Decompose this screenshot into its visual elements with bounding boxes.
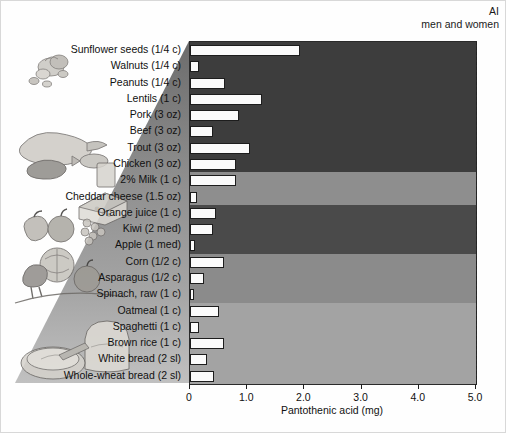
- category-label: Kiwi (2 med): [123, 220, 181, 237]
- bar: [190, 143, 250, 154]
- plot-area: [189, 41, 477, 385]
- x-tick-label: 5.0: [468, 391, 483, 403]
- bar-row: [190, 351, 476, 368]
- bar-row: [190, 189, 476, 206]
- bar-row: [190, 221, 476, 238]
- bar: [190, 45, 300, 56]
- ai-annotation-line1: AI: [421, 5, 499, 18]
- category-label: Beef (3 oz): [130, 122, 181, 139]
- category-label: Spinach, raw (1 c): [96, 285, 181, 302]
- category-label: Orange juice (1 c): [98, 204, 181, 221]
- x-tick-label: 0: [186, 391, 192, 403]
- x-tick: [418, 384, 419, 389]
- x-tick: [361, 384, 362, 389]
- category-label: Asparagus (1/2 c): [98, 269, 181, 286]
- category-label: Corn (1/2 c): [126, 253, 181, 270]
- bar-row: [190, 156, 476, 173]
- bar-row: [190, 140, 476, 157]
- category-label: Apple (1 med): [115, 236, 181, 253]
- category-label: Brown rice (1 c): [107, 334, 181, 351]
- bar-row: [190, 123, 476, 140]
- bar-row: [190, 286, 476, 303]
- bar-row: [190, 205, 476, 222]
- bar-row: [190, 254, 476, 271]
- bar: [190, 306, 219, 317]
- category-label: Sunflower seeds (1/4 c): [71, 41, 181, 58]
- x-axis-title: Pantothenic acid (mg): [189, 404, 475, 416]
- x-tick: [475, 384, 476, 389]
- category-label: Pork (3 oz): [130, 106, 181, 123]
- bar-row: [190, 319, 476, 336]
- bar-row: [190, 42, 476, 59]
- category-label: Peanuts (1/4 c): [110, 74, 181, 91]
- bar-row: [190, 91, 476, 108]
- bar-row: [190, 270, 476, 287]
- bar-row: [190, 335, 476, 352]
- bars-container: [190, 42, 476, 384]
- bar: [190, 110, 239, 121]
- ai-annotation: AI men and women: [421, 5, 499, 31]
- bar-row: [190, 107, 476, 124]
- bar: [190, 94, 262, 105]
- bar-row: [190, 75, 476, 92]
- ai-annotation-line2: men and women: [421, 18, 499, 31]
- bar: [190, 175, 236, 186]
- bar: [190, 289, 194, 300]
- bar-row: [190, 172, 476, 189]
- bar: [190, 208, 216, 219]
- bar-row: [190, 58, 476, 75]
- bar: [190, 61, 199, 72]
- category-label: Oatmeal (1 c): [117, 302, 181, 319]
- bar: [190, 78, 225, 89]
- bar: [190, 273, 204, 284]
- x-tick-label: 2.0: [296, 391, 311, 403]
- category-label: Trout (3 oz): [127, 139, 181, 156]
- bar-row: [190, 368, 476, 385]
- bar: [190, 322, 199, 333]
- x-tick-label: 3.0: [353, 391, 368, 403]
- category-label: Lentils (1 c): [127, 90, 181, 107]
- bar: [190, 126, 213, 137]
- pantothenic-acid-chart: AI men and women: [0, 0, 506, 433]
- bar: [190, 354, 207, 365]
- bar: [190, 224, 213, 235]
- x-tick-label: 4.0: [410, 391, 425, 403]
- bar: [190, 371, 214, 382]
- x-axis: 01.02.03.04.05.0: [189, 384, 475, 385]
- x-tick-label: 1.0: [239, 391, 254, 403]
- category-label: Whole-wheat bread (2 sl): [64, 367, 181, 384]
- bar: [190, 257, 224, 268]
- bar-row: [190, 237, 476, 254]
- bar: [190, 338, 224, 349]
- category-label: 2% Milk (1 c): [120, 171, 181, 188]
- x-tick: [303, 384, 304, 389]
- ai-reference-line: [476, 42, 477, 384]
- x-tick: [246, 384, 247, 389]
- bar: [190, 192, 197, 203]
- category-label: Walnuts (1/4 c): [111, 57, 181, 74]
- bar: [190, 240, 195, 251]
- bar-row: [190, 303, 476, 320]
- x-tick: [189, 384, 190, 389]
- category-label: Spaghetti (1 c): [113, 318, 181, 335]
- category-label: Chicken (3 oz): [113, 155, 181, 172]
- category-labels: Sunflower seeds (1/4 c)Walnuts (1/4 c)Pe…: [1, 41, 185, 383]
- category-label: White bread (2 sl): [98, 350, 181, 367]
- bar: [190, 159, 236, 170]
- category-label: Cheddar cheese (1.5 oz): [65, 188, 181, 205]
